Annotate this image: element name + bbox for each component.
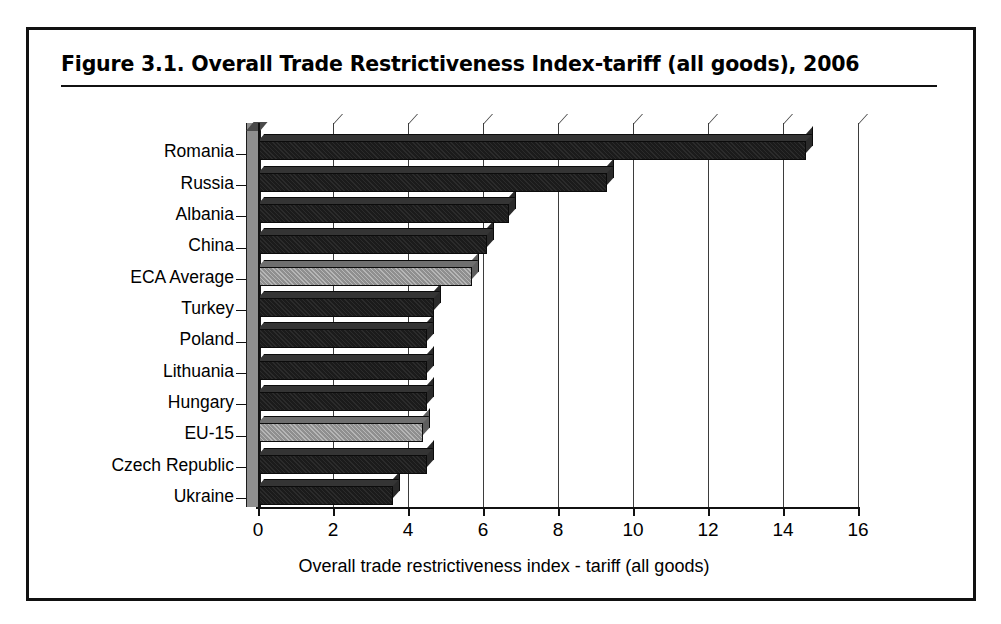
bar-top-face	[258, 260, 478, 267]
category-label-romania: Romania	[164, 143, 234, 161]
chart-area: RomaniaRussiaAlbaniaChinaECA AverageTurk…	[29, 30, 979, 604]
gridline-top-cap	[558, 114, 578, 124]
category-label-albania: Albania	[176, 206, 234, 224]
plot-area: 0246810121416	[258, 131, 858, 507]
x-tick-label: 4	[403, 519, 414, 541]
gridline-top-cap	[408, 114, 428, 124]
bar-row	[258, 235, 858, 254]
bar[interactable]	[258, 141, 806, 160]
bar-top-face	[258, 322, 433, 329]
gridline	[858, 123, 859, 507]
bar[interactable]	[258, 204, 509, 223]
bar-row	[258, 455, 858, 474]
category-tick	[236, 498, 246, 499]
bar-top-face	[258, 166, 613, 173]
category-tick	[236, 310, 246, 311]
category-tick	[236, 436, 246, 437]
category-tick	[236, 373, 246, 374]
bar-top-face	[258, 228, 493, 235]
bar-row	[258, 392, 858, 411]
x-tick-label: 14	[772, 519, 793, 541]
bar[interactable]	[258, 267, 472, 286]
category-label-poland: Poland	[180, 331, 235, 349]
bar[interactable]	[258, 329, 427, 348]
value-axis-line	[258, 123, 260, 515]
bar[interactable]	[258, 235, 487, 254]
x-tick	[408, 507, 410, 516]
bar-top-face	[258, 291, 441, 298]
x-tick-label: 10	[622, 519, 643, 541]
category-tick	[236, 154, 246, 155]
x-axis-title: Overall trade restrictiveness index - ta…	[29, 556, 979, 577]
category-label-china: China	[188, 237, 234, 255]
bar-row	[258, 267, 858, 286]
category-tick	[236, 404, 246, 405]
bar-top-face	[258, 448, 433, 455]
bar-top-face	[258, 385, 433, 392]
gridline-top-cap	[708, 114, 728, 124]
category-tick	[236, 248, 246, 249]
x-tick-label: 2	[328, 519, 339, 541]
bar[interactable]	[258, 486, 393, 505]
category-label-hungary: Hungary	[168, 394, 234, 412]
bar[interactable]	[258, 298, 434, 317]
x-tick	[483, 507, 485, 516]
bar-row	[258, 486, 858, 505]
x-tick-label: 12	[697, 519, 718, 541]
x-tick-label: 6	[478, 519, 489, 541]
category-label-eu-15: EU-15	[184, 425, 234, 443]
bar-row	[258, 298, 858, 317]
category-tick	[236, 342, 246, 343]
bar-row	[258, 141, 858, 160]
bar-row	[258, 173, 858, 192]
x-tick	[258, 507, 260, 516]
x-tick	[633, 507, 635, 516]
figure-frame: Figure 3.1. Overall Trade Restrictivenes…	[26, 27, 976, 601]
x-tick	[783, 507, 785, 516]
x-tick-label: 8	[553, 519, 564, 541]
bar-top-face	[258, 197, 516, 204]
x-tick	[558, 507, 560, 516]
category-label-turkey: Turkey	[181, 300, 234, 318]
bar-row	[258, 329, 858, 348]
gridline-top-cap	[633, 114, 653, 124]
category-tick	[236, 216, 246, 217]
category-label-czech-republic: Czech Republic	[111, 457, 234, 475]
x-tick	[333, 507, 335, 516]
bar-top-face	[258, 134, 812, 141]
x-tick-label: 0	[253, 519, 264, 541]
bar[interactable]	[258, 361, 427, 380]
category-label-russia: Russia	[181, 175, 235, 193]
x-tick-label: 16	[847, 519, 868, 541]
bar-row	[258, 361, 858, 380]
bar[interactable]	[258, 173, 607, 192]
bar-row	[258, 204, 858, 223]
bar-top-face	[258, 479, 399, 486]
bar[interactable]	[258, 455, 427, 474]
gridline-top-cap	[858, 114, 878, 124]
x-tick	[858, 507, 860, 516]
category-axis-labels: RomaniaRussiaAlbaniaChinaECA AverageTurk…	[29, 131, 234, 507]
category-label-eca-average: ECA Average	[130, 269, 234, 287]
bar[interactable]	[258, 392, 427, 411]
bar[interactable]	[258, 423, 423, 442]
gridline-top-cap	[783, 114, 803, 124]
category-tick	[236, 185, 246, 186]
category-label-ukraine: Ukraine	[174, 488, 234, 506]
category-tick	[236, 279, 246, 280]
category-label-lithuania: Lithuania	[163, 363, 234, 381]
category-tick	[236, 467, 246, 468]
gridline-top-cap	[333, 114, 353, 124]
gridline-top-cap	[483, 114, 503, 124]
x-tick	[708, 507, 710, 516]
bar-top-face	[258, 354, 433, 361]
bar-row	[258, 423, 858, 442]
bar-top-face	[258, 416, 429, 423]
